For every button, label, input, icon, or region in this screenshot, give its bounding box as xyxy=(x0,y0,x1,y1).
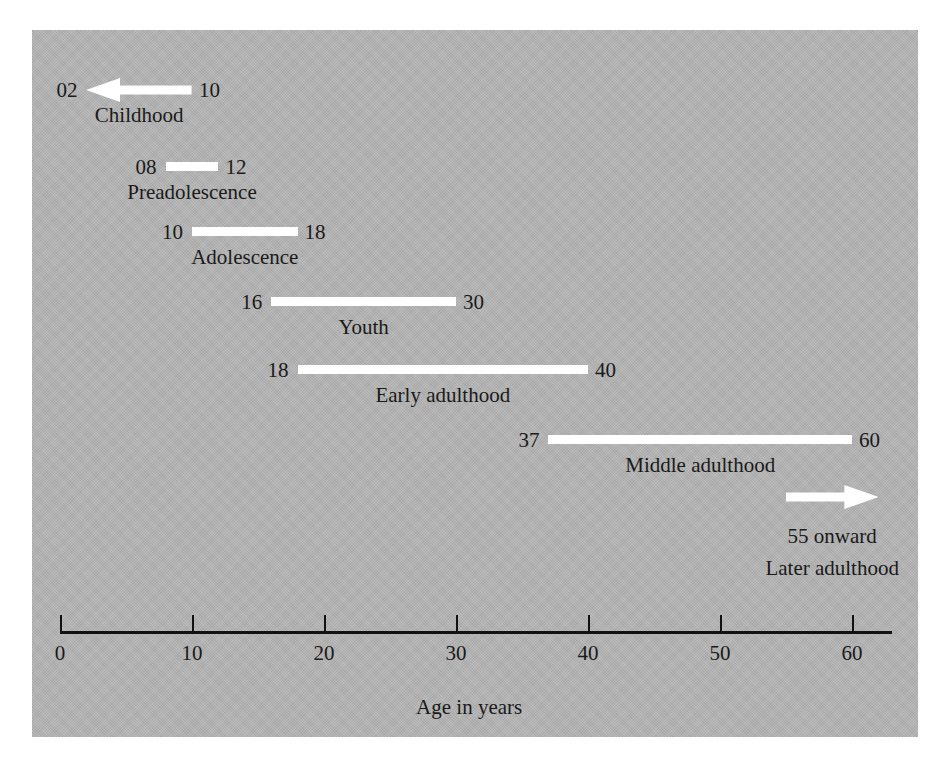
x-axis-tick xyxy=(324,615,326,631)
stage-start-label: 18 xyxy=(268,359,289,380)
stage-start-label: 10 xyxy=(162,221,183,242)
stage-name-label: Youth xyxy=(338,317,388,338)
stage-name-label: Adolescence xyxy=(191,247,298,268)
x-axis-tick xyxy=(60,615,62,631)
stage-bar xyxy=(298,365,588,374)
x-axis-line xyxy=(60,631,892,634)
age-stages-chart: 0210Childhood0812Preadolescence1018Adole… xyxy=(0,0,944,767)
stage-bar xyxy=(192,227,298,236)
stage-note: 55 onward xyxy=(788,526,877,547)
x-axis-title: Age in years xyxy=(416,697,522,718)
stage-end-label: 12 xyxy=(225,156,246,177)
x-axis-tick xyxy=(720,615,722,631)
x-axis-tick xyxy=(192,615,194,631)
x-axis-tick-label: 30 xyxy=(446,643,467,664)
x-axis-tick-label: 60 xyxy=(842,643,863,664)
stage-start-label: 16 xyxy=(241,291,262,312)
chart-panel: 0210Childhood0812Preadolescence1018Adole… xyxy=(32,30,918,737)
stage-end-label: 60 xyxy=(859,429,880,450)
stage-bar xyxy=(548,435,852,444)
stage-end-label: 40 xyxy=(595,359,616,380)
stage-end-label: 10 xyxy=(199,79,220,100)
x-axis-tick-label: 20 xyxy=(314,643,335,664)
x-axis-tick-label: 0 xyxy=(55,643,66,664)
stage-name-label: Early adulthood xyxy=(375,385,510,406)
x-axis-tick-label: 40 xyxy=(578,643,599,664)
x-axis-tick-label: 10 xyxy=(182,643,203,664)
stage-arrow-right-icon xyxy=(786,484,878,510)
stage-start-label: 37 xyxy=(518,429,539,450)
stage-start-label: 02 xyxy=(56,79,77,100)
x-axis-tick xyxy=(456,615,458,631)
stage-bar xyxy=(271,297,456,306)
stage-end-label: 30 xyxy=(463,291,484,312)
stage-end-label: 18 xyxy=(305,221,326,242)
stage-bar xyxy=(166,162,219,171)
x-axis-tick-label: 50 xyxy=(710,643,731,664)
x-axis-tick xyxy=(852,615,854,631)
stage-name-label: Later adulthood xyxy=(765,558,899,579)
stage-arrow-left-icon xyxy=(86,77,192,103)
stage-name-label: Preadolescence xyxy=(127,182,256,203)
stage-name-label: Middle adulthood xyxy=(625,455,775,476)
stage-start-label: 08 xyxy=(136,156,157,177)
stage-name-label: Childhood xyxy=(95,105,184,126)
x-axis-tick xyxy=(588,615,590,631)
